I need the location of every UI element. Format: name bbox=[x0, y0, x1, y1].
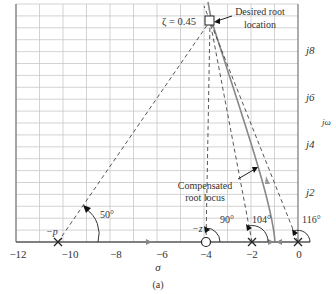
desired-root-marker-icon bbox=[205, 16, 214, 25]
real-axis-arrow-icon bbox=[146, 239, 152, 245]
angle-label-zero: 116° bbox=[302, 214, 321, 225]
x-tick: −6 bbox=[156, 248, 168, 260]
real-axis-arrow-icon bbox=[268, 239, 274, 245]
y-tick: j8 bbox=[304, 44, 315, 56]
compensated-locus-label: root locus bbox=[185, 192, 225, 203]
desired-root-label: Desired root bbox=[235, 6, 285, 17]
desired-root-label: location bbox=[244, 19, 276, 30]
pointer-arrowhead-icon bbox=[214, 18, 220, 24]
compensated-locus-label: Compensated bbox=[178, 180, 232, 191]
angle-label-minus2: 104° bbox=[252, 214, 271, 225]
zero-z-label: −z bbox=[192, 223, 203, 234]
x-tick: −2 bbox=[246, 248, 258, 260]
x-tick-labels: −12 −10 −8 −6 −4 −2 0 bbox=[9, 248, 302, 260]
x-tick: −8 bbox=[110, 248, 122, 260]
y-tick: j2 bbox=[304, 186, 315, 198]
x-axis-label: σ bbox=[155, 261, 161, 273]
y-axis-label: jω bbox=[321, 117, 331, 127]
locus-arrow-icon bbox=[265, 176, 270, 184]
zero-z-icon bbox=[202, 238, 211, 247]
x-tick: 0 bbox=[296, 248, 302, 260]
root-locus-diagram: −12 −10 −8 −6 −4 −2 0 σ (a) j2 j4 j6 j8 … bbox=[0, 0, 336, 294]
x-tick: −4 bbox=[200, 248, 212, 260]
x-tick: −10 bbox=[61, 248, 79, 260]
y-tick: j6 bbox=[304, 91, 315, 103]
grid bbox=[16, 4, 298, 242]
angle-label-z: 90° bbox=[220, 214, 234, 225]
pole-p-label: −p bbox=[46, 226, 58, 237]
angle-label-p: 50° bbox=[100, 209, 114, 220]
y-tick: j4 bbox=[304, 138, 315, 150]
y-tick-labels: j2 j4 j6 j8 bbox=[304, 44, 315, 198]
real-axis-arrow-icon bbox=[276, 239, 282, 245]
zeta-label: ζ = 0.45 bbox=[162, 16, 196, 28]
figure-caption: (a) bbox=[152, 279, 163, 291]
x-tick: −12 bbox=[9, 248, 26, 260]
